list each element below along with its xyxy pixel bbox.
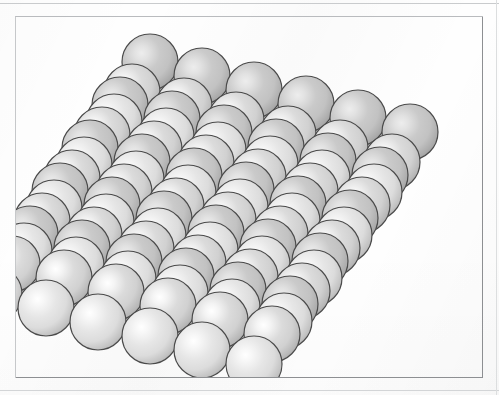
sphere-group: [0, 34, 438, 392]
sphere: [70, 294, 126, 350]
sphere: [226, 336, 282, 392]
figure-root: Close-packed sphere model of a crystal l…: [0, 0, 499, 395]
sphere: [174, 322, 230, 378]
sphere-lattice-container: [0, 0, 499, 395]
sphere: [122, 308, 178, 364]
sphere: [18, 280, 74, 336]
sphere-lattice-svg: [0, 0, 499, 395]
